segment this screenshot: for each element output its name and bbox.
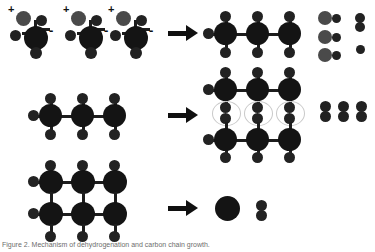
- carbon-atom: [246, 128, 269, 151]
- charge-positive-label: +: [8, 4, 14, 15]
- arrow-head-icon: [186, 107, 198, 123]
- oxygen-atom: [318, 11, 332, 25]
- hydroxyl-group-2: [318, 30, 344, 46]
- carbon-atom: [246, 22, 269, 45]
- carbon-atom: [214, 22, 237, 45]
- carbon-atom: [278, 78, 301, 101]
- monomer-1: + -: [8, 4, 66, 60]
- hydrogen-atom: [30, 47, 42, 59]
- hydrogen-atom: [220, 102, 231, 113]
- reaction-arrow-row-1: [168, 24, 198, 42]
- hydrogen-atom: [203, 134, 214, 145]
- monomer-3: + -: [108, 4, 166, 60]
- hydrogen-molecule-row-1: [355, 13, 369, 35]
- hydrogen-atom: [355, 22, 365, 32]
- hydrogen-molecule-b-row-2: [338, 101, 350, 123]
- reaction-figure: + - + - + -: [0, 0, 375, 252]
- hydrogen-atom: [284, 67, 295, 78]
- hydrogen-atom: [256, 210, 267, 221]
- hydrogen-atom: [109, 93, 120, 104]
- charge-negative-label: -: [49, 26, 53, 36]
- hydrogen-atom: [130, 47, 142, 59]
- carbon-atom: [278, 128, 301, 151]
- arrow-head-icon: [186, 25, 198, 41]
- hydrogen-molecule-a-row-2: [320, 101, 332, 123]
- figure-caption: Figure 2. Mechanism of dehydrogenation a…: [2, 240, 373, 249]
- hydrogen-atom: [284, 152, 295, 163]
- hydrogen-molecule-c-row-2: [356, 101, 368, 123]
- hydrogen-atom: [332, 14, 341, 23]
- carbon-atom: [39, 104, 62, 127]
- hydrogen-atom: [45, 129, 56, 140]
- oxygen-atom: [318, 30, 332, 44]
- hydrogen-atom: [284, 102, 295, 113]
- carbon-atom: [71, 202, 95, 226]
- hydrogen-atom: [203, 84, 214, 95]
- carbon-atom: [215, 196, 240, 221]
- product-chain-row-1: [203, 8, 303, 60]
- hydrogen-atom: [220, 11, 231, 22]
- hydrogen-atom: [356, 111, 367, 122]
- hydrogen-atom: [36, 15, 47, 26]
- hydrogen-atom: [45, 93, 56, 104]
- arrow-shaft: [168, 113, 188, 118]
- gray-sphere-atom: [16, 11, 31, 26]
- hydrogen-atom: [65, 30, 76, 41]
- charge-negative-label: -: [149, 26, 153, 36]
- hydrogen-atom: [338, 111, 349, 122]
- hydrogen-atom: [109, 129, 120, 140]
- hydrogen-atom: [320, 111, 331, 122]
- hydrogen-atom: [10, 30, 21, 41]
- hydrogen-atom: [85, 47, 97, 59]
- hydroxyl-group-3: [318, 48, 344, 64]
- hydrogen-atom: [203, 28, 214, 39]
- hydrogen-atom: [77, 93, 88, 104]
- carbon-particle-row-3: [215, 196, 241, 222]
- hydrogen-atom: [28, 110, 39, 121]
- charge-positive-label: +: [108, 4, 114, 15]
- hydrogen-atom: [332, 51, 341, 60]
- hydrogen-atom: [77, 129, 88, 140]
- hydrogen-atom: [136, 15, 147, 26]
- carbon-atom: [103, 104, 126, 127]
- hydrogen-atom: [252, 47, 263, 58]
- stacked-chain-assembly-row-2: [203, 72, 313, 156]
- arrow-shaft: [168, 206, 188, 211]
- hydrogen-atom-single-row-1: [356, 45, 366, 55]
- hydroxyl-group-1: [318, 11, 344, 27]
- carbon-atom: [71, 170, 95, 194]
- hydrogen-atom: [110, 30, 121, 41]
- hydrogen-atom: [332, 33, 341, 42]
- arrow-head-icon: [186, 200, 198, 216]
- hydrogen-molecule-row-3: [256, 200, 268, 222]
- gray-sphere-atom: [71, 11, 86, 26]
- carbon-atom: [71, 104, 94, 127]
- carbon-atom: [278, 22, 301, 45]
- carbon-atom: [39, 202, 63, 226]
- carbon-atom: [103, 170, 127, 194]
- carbon-atom: [214, 128, 237, 151]
- hydrogen-atom: [28, 208, 39, 219]
- hydrogen-atom: [28, 176, 39, 187]
- reaction-arrow-row-3: [168, 199, 198, 217]
- carbon-atom: [246, 78, 269, 101]
- carbon-sheet-fragment-row-3: [28, 166, 138, 246]
- hydrogen-atom: [220, 67, 231, 78]
- oxygen-atom: [318, 48, 332, 62]
- hydrogen-atom: [284, 47, 295, 58]
- charge-positive-label: +: [63, 4, 69, 15]
- hydrogen-atom: [91, 15, 102, 26]
- carbon-atom: [39, 170, 63, 194]
- hydrogen-atom: [220, 47, 231, 58]
- hydrogen-atom: [252, 152, 263, 163]
- hydrogen-atom: [356, 45, 365, 54]
- hydrogen-atom: [252, 67, 263, 78]
- reactant-chain-row-2: [28, 90, 128, 142]
- carbon-atom: [103, 202, 127, 226]
- hydrogen-atom: [220, 152, 231, 163]
- hydrogen-atom: [252, 102, 263, 113]
- hydrogen-atom: [284, 11, 295, 22]
- hydrogen-atom: [252, 11, 263, 22]
- arrow-shaft: [168, 31, 188, 36]
- gray-sphere-atom: [116, 11, 131, 26]
